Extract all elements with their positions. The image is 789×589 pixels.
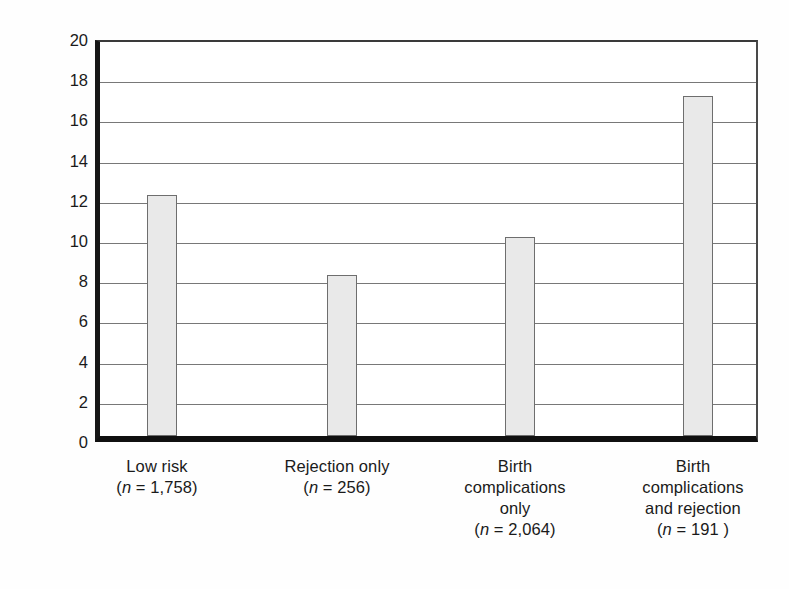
n-value: = 256) [318, 478, 371, 496]
y-tick-label: 12 [48, 193, 88, 210]
x-category-label-line: only [427, 498, 603, 519]
x-category-sample-size: (n = 191 ) [605, 519, 781, 540]
x-category-sample-size: (n = 1,758) [69, 477, 245, 498]
bar [147, 195, 177, 436]
y-tick-label: 16 [48, 112, 88, 129]
plot-area [95, 40, 758, 442]
n-value: = 2,064) [489, 520, 556, 538]
y-tick-label: 6 [48, 313, 88, 330]
x-category-label: Rejection only(n = 256) [249, 456, 425, 498]
y-tick-label: 2 [48, 394, 88, 411]
n-value: = 191 ) [672, 520, 729, 538]
y-tick-label: 8 [48, 273, 88, 290]
y-tick-label: 18 [48, 72, 88, 89]
x-category-label-line: Low risk [69, 456, 245, 477]
y-axis-tick-labels: 20181614121086420 [48, 40, 88, 442]
n-symbol: n [663, 520, 672, 538]
x-category-label-line: Birth [427, 456, 603, 477]
y-tick-label: 10 [48, 233, 88, 250]
bar-chart-figure: Percent violent 20181614121086420 Low ri… [0, 0, 789, 589]
bars-layer [100, 42, 756, 436]
x-axis-category-labels: Low risk(n = 1,758)Rejection only(n = 25… [95, 456, 758, 581]
bar [327, 275, 357, 436]
x-category-sample-size: (n = 2,064) [427, 519, 603, 540]
n-symbol: n [122, 478, 131, 496]
n-symbol: n [309, 478, 318, 496]
x-category-label-line: Rejection only [249, 456, 425, 477]
x-category-label-line: and rejection [605, 498, 781, 519]
y-tick-label: 20 [48, 32, 88, 49]
bar [505, 237, 535, 436]
x-category-label-line: Birth [605, 456, 781, 477]
x-category-label-line: complications [605, 477, 781, 498]
y-tick-label: 14 [48, 152, 88, 169]
y-tick-label: 4 [48, 353, 88, 370]
x-category-label: Birthcomplicationsonly(n = 2,064) [427, 456, 603, 540]
x-category-label: Birthcomplicationsand rejection(n = 191 … [605, 456, 781, 540]
x-category-sample-size: (n = 256) [249, 477, 425, 498]
n-value: = 1,758) [131, 478, 198, 496]
n-symbol: n [480, 520, 489, 538]
x-category-label: Low risk(n = 1,758) [69, 456, 245, 498]
bar [683, 96, 713, 436]
x-category-label-line: complications [427, 477, 603, 498]
y-tick-label: 0 [48, 434, 88, 451]
